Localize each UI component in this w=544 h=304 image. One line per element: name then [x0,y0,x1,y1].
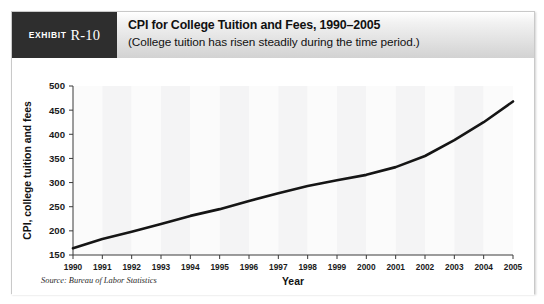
y-tick-label: 350 [49,153,65,164]
exhibit-card: Exhibit R-10 CPI for College Tuition and… [11,11,535,294]
chart-band [337,86,366,255]
chart-band [278,86,307,255]
chart-band [190,86,219,255]
chart-band [161,86,190,255]
chart-band [454,86,483,255]
chart-band [102,86,131,255]
x-axis-title: Year [282,276,304,287]
exhibit-label-number: R-10 [70,27,100,44]
x-tick-label: 2001 [386,262,405,272]
y-tick-label: 400 [49,129,65,140]
chart-band [425,86,454,255]
chart-band [396,86,425,255]
x-tick-label: 1999 [328,262,347,272]
line-chart-svg: 150200250300350400450500 199019911992199… [12,58,536,295]
x-tick-label: 1997 [269,262,288,272]
y-tick-label: 250 [49,201,65,212]
y-tick-label: 200 [49,225,65,236]
x-tick-label: 1991 [93,262,112,272]
exhibit-label-word: Exhibit [29,30,67,40]
y-axis-ticks: 150200250300350400450500 [49,80,73,260]
exhibit-label-tab: Exhibit R-10 [12,12,117,58]
chart-band [220,86,249,255]
y-axis-title: CPI, college tuition and fees [22,101,33,240]
y-tick-label: 450 [49,105,65,116]
chart-title: CPI for College Tuition and Fees, 1990–2… [128,17,528,34]
x-tick-label: 2000 [357,262,376,272]
x-tick-label: 2003 [445,262,464,272]
y-tick-label: 300 [49,177,65,188]
x-tick-label: 1990 [64,262,83,272]
x-tick-label: 2002 [416,262,435,272]
chart-band [249,86,278,255]
x-axis-ticks: 1990199119921993199419951996199719981999… [64,255,523,272]
x-tick-label: 1998 [298,262,317,272]
y-tick-label: 500 [49,80,65,91]
chart-band [308,86,337,255]
x-tick-label: 2004 [474,262,493,272]
chart-subtitle: (College tuition has risen steadily duri… [128,34,528,50]
exhibit-figure-root: Exhibit R-10 CPI for College Tuition and… [0,0,544,304]
x-tick-label: 1996 [240,262,259,272]
y-tick-label: 150 [49,249,65,260]
chart-band [73,86,102,255]
exhibit-header-text: CPI for College Tuition and Fees, 1990–2… [128,17,528,50]
x-tick-label: 1994 [181,262,200,272]
source-note: Source: Bureau of Labor Statistics [41,276,157,285]
exhibit-header-band: Exhibit R-10 CPI for College Tuition and… [12,12,534,58]
chart-figure: 150200250300350400450500 199019911992199… [12,58,534,295]
x-tick-label: 1992 [122,262,141,272]
x-tick-label: 1993 [152,262,171,272]
x-tick-label: 1995 [210,262,229,272]
x-tick-label: 2005 [504,262,523,272]
